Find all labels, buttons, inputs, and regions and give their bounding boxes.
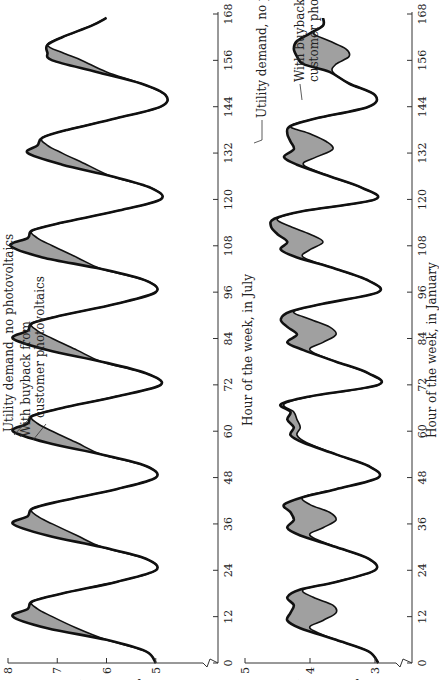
y-tick-label: 5 (150, 667, 163, 674)
x-tick-label: 168 (222, 4, 235, 25)
figure: 012243648607284961081201321441561688765 … (0, 0, 439, 680)
x-tick-label: 156 (416, 50, 429, 71)
january-chart: 01224364860728496108120132144156168543 H… (239, 0, 439, 674)
x-tick-label: 132 (416, 143, 429, 164)
x-tick-label: 156 (222, 50, 235, 71)
y-tick-label: 8 (2, 667, 15, 674)
x-tick-label: 144 (416, 96, 429, 117)
x-tick-label: 108 (416, 235, 429, 256)
january-annotation-buyback-1: With buyback from (293, 0, 307, 82)
y-tick-label: 6 (101, 667, 114, 674)
x-tick-label: 0 (416, 660, 429, 667)
july-x-axis-label: Hour of the week, in July (241, 274, 255, 426)
y-tick-label: 4 (304, 667, 317, 674)
january-x-axis-label: Hour of the week, in January (425, 262, 439, 438)
x-tick-label: 0 (222, 660, 235, 667)
x-tick-label: 144 (222, 96, 235, 117)
july-annotation-buyback-1: With buyback from (19, 320, 33, 437)
january-annotation-base: Utility demand, no photovoltaics (255, 0, 269, 118)
x-tick-label: 24 (222, 563, 235, 577)
x-tick-label: 48 (416, 471, 429, 485)
x-tick-label: 24 (416, 563, 429, 577)
chart-canvas: 012243648607284961081201321441561688765 … (0, 0, 439, 680)
july-annotation-buyback-2: customer photovoltaics (33, 276, 47, 418)
x-tick-label: 72 (222, 378, 235, 392)
y-tick-label: 5 (239, 667, 252, 674)
x-tick-label: 120 (222, 189, 235, 210)
july-annotation-base: Utility demand, no photovoltaics (2, 234, 16, 432)
july-chart: 012243648607284961081201321441561688765 … (2, 4, 255, 675)
y-tick-label: 7 (51, 667, 64, 674)
january-annotation-leader-buyback (300, 84, 302, 100)
x-tick-label: 12 (416, 610, 429, 624)
january-annotation-buyback-2: customer photovoltaics (307, 0, 321, 82)
x-tick-label: 36 (416, 517, 429, 531)
x-tick-label: 36 (222, 517, 235, 531)
x-tick-label: 84 (222, 332, 235, 346)
x-tick-label: 48 (222, 471, 235, 485)
x-tick-label: 132 (222, 143, 235, 164)
x-tick-label: 12 (222, 610, 235, 624)
x-tick-label: 120 (416, 189, 429, 210)
x-tick-label: 60 (222, 424, 235, 438)
x-tick-label: 168 (416, 4, 429, 25)
january-annotation-leader-base-tail (254, 140, 262, 143)
x-tick-label: 108 (222, 235, 235, 256)
x-tick-label: 96 (222, 285, 235, 299)
y-tick-label: 3 (369, 667, 382, 674)
